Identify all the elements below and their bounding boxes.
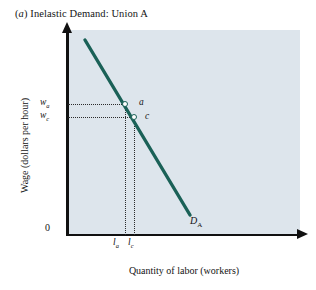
demand-curve-svg xyxy=(0,0,316,290)
demand-curve-label: DA xyxy=(190,215,202,229)
economics-figure-panel-a: (a) Inelastic Demand: Union A Wage (doll… xyxy=(0,0,316,290)
point-label-a: a xyxy=(139,97,144,107)
demand-curve-line xyxy=(85,40,190,215)
demand-curve-label-sub: A xyxy=(197,221,202,229)
point-label-c: c xyxy=(145,111,149,121)
point-marker-c xyxy=(131,114,137,120)
point-marker-a xyxy=(122,101,128,107)
